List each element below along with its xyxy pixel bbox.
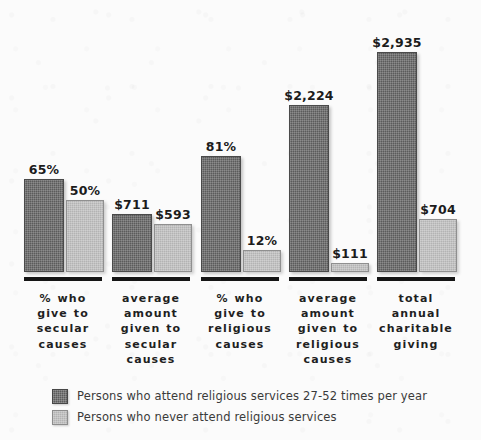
bar-wrap: $711 [112, 202, 152, 272]
axis-rule [377, 277, 455, 281]
bar-value-label: $593 [155, 207, 191, 222]
legend-label: Persons who never attend religious servi… [77, 410, 337, 424]
bar-wrap: 50% [66, 192, 104, 272]
legend-item-attenders[interactable]: Persons who attend religious services 27… [52, 387, 452, 405]
legend-swatch-icon [52, 389, 68, 404]
category-label-secular-percent: % who give to secular causes [20, 291, 106, 352]
bar-series-b[interactable]: $593 [154, 224, 192, 272]
bar-wrap: $704 [419, 207, 457, 272]
bar-series-b[interactable]: 50% [66, 200, 104, 272]
bar-value-label: 50% [70, 183, 101, 198]
bar-wrap: $2,935 [377, 37, 417, 272]
bar-series-a[interactable]: $2,224 [289, 105, 329, 272]
axis-rule [112, 277, 190, 281]
legend-swatch-icon [52, 410, 68, 425]
bar-series-a[interactable]: $711 [112, 214, 152, 272]
axis-rule [201, 277, 279, 281]
category-label-religious-percent: % who give to religious causes [197, 291, 283, 352]
bar-group-secular-amount: $711 $593 [112, 0, 190, 282]
bar-group-religious-percent: 81% 12% [201, 0, 279, 282]
bar-series-a[interactable]: 65% [24, 179, 64, 272]
bar-chart: 65% 50% $711 $593 [0, 0, 481, 440]
bar-group-secular-percent: 65% 50% [24, 0, 102, 282]
axis-rule [24, 277, 102, 281]
bar-value-label: $711 [114, 197, 150, 212]
bar-group-religious-amount: $2,224 $111 [289, 0, 367, 282]
bar-value-label: $704 [420, 202, 456, 217]
bar-value-label: $2,224 [284, 88, 333, 103]
bar-value-label: 65% [29, 162, 60, 177]
bar-value-label: 12% [247, 233, 278, 248]
plot-area: 65% 50% $711 $593 [0, 0, 481, 282]
bar-series-b[interactable]: 12% [243, 250, 281, 272]
legend-item-non-attenders[interactable]: Persons who never attend religious servi… [52, 408, 452, 426]
legend-label: Persons who attend religious services 27… [77, 389, 427, 403]
bar-wrap: 65% [24, 172, 64, 272]
bar-series-a[interactable]: $2,935 [377, 52, 417, 272]
category-label-secular-amount: average amount given to secular causes [108, 291, 194, 367]
bar-wrap: $593 [154, 212, 192, 272]
bar-wrap: 81% [201, 147, 241, 272]
category-label-total-giving: total annual charitable giving [373, 291, 459, 352]
bar-wrap: $2,224 [289, 92, 329, 272]
chart-legend: Persons who attend religious services 27… [52, 387, 452, 429]
category-label-religious-amount: average amount given to religious causes [285, 291, 371, 367]
bar-series-b[interactable]: $704 [419, 219, 457, 272]
bar-series-b[interactable]: $111 [331, 263, 369, 272]
bar-value-label: 81% [206, 139, 237, 154]
bar-series-a[interactable]: 81% [201, 156, 241, 272]
bar-wrap: 12% [243, 242, 281, 272]
bar-value-label: $111 [332, 246, 368, 261]
bar-group-total-giving: $2,935 $704 [377, 0, 455, 282]
axis-rule [289, 277, 367, 281]
bar-wrap: $111 [331, 254, 369, 272]
bar-value-label: $2,935 [372, 35, 421, 50]
